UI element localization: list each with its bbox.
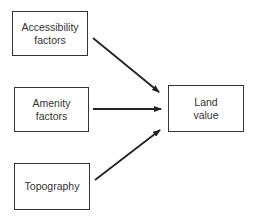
node-label-line: Amenity: [33, 97, 71, 110]
node-amenity-factors: Amenity factors: [14, 87, 89, 132]
node-label-line: value: [193, 109, 218, 122]
node-label-line: factors: [33, 110, 71, 123]
node-topography: Topography: [14, 163, 90, 210]
node-label-line: Land: [193, 96, 218, 109]
node-label-line: factors: [21, 34, 78, 47]
node-land-value: Land value: [168, 85, 244, 132]
arrow-accessibility-to-land-value: [93, 38, 159, 92]
node-label-line: Topography: [25, 180, 80, 193]
node-accessibility-factors: Accessibility factors: [12, 11, 88, 56]
node-label-line: Accessibility: [21, 21, 78, 34]
arrow-topography-to-land-value: [95, 130, 160, 180]
